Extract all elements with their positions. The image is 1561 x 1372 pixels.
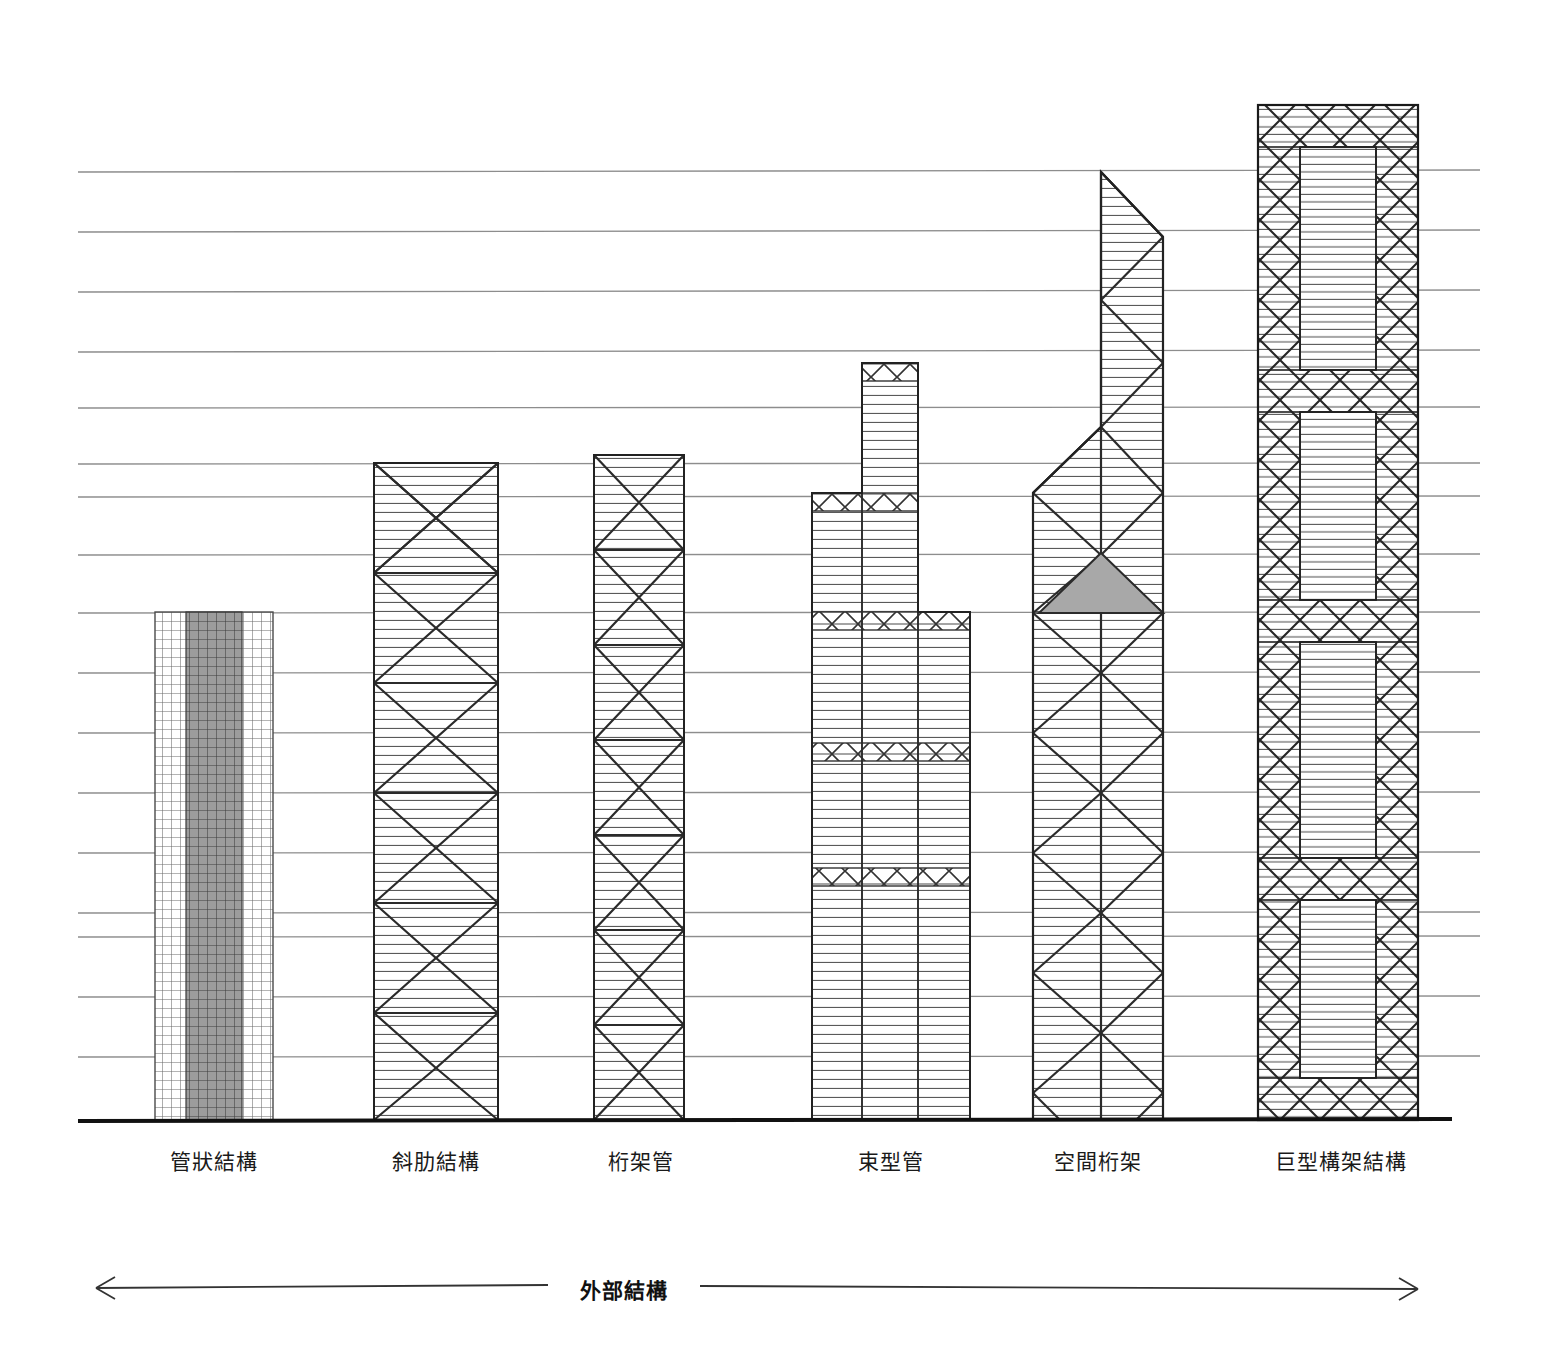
category-label-truss-tube: 桁架管 xyxy=(608,1145,674,1175)
axis-caption: 外部結構 xyxy=(580,1274,668,1304)
tower-truss-tube xyxy=(594,455,684,1120)
tower-bundled-tube xyxy=(812,363,970,1120)
axis-arrow xyxy=(96,1277,1418,1300)
category-label-megaframe: 巨型構架結構 xyxy=(1275,1145,1407,1175)
structural-systems-height-diagram: 管狀結構 斜肋結構 桁架管 束型管 空間桁架 巨型構架結構 外部結構 xyxy=(0,0,1561,1372)
tower-space-truss xyxy=(1033,172,1163,1120)
tower-megaframe xyxy=(1258,105,1418,1120)
tower-tubular xyxy=(155,612,273,1120)
tower-diagrid xyxy=(374,463,498,1120)
baseline xyxy=(78,1119,1452,1121)
category-label-bundled-tube: 束型管 xyxy=(858,1145,924,1175)
category-label-space-truss: 空間桁架 xyxy=(1054,1145,1142,1175)
category-label-tubular: 管狀結構 xyxy=(170,1145,258,1175)
category-label-diagrid: 斜肋結構 xyxy=(392,1145,480,1175)
